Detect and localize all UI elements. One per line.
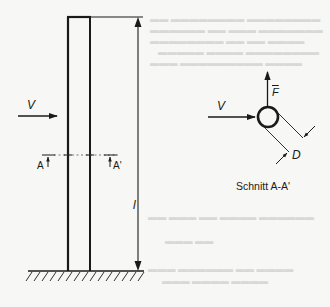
pole-side-view bbox=[67, 17, 91, 271]
diagram-graphics bbox=[0, 0, 330, 307]
ground-clamp bbox=[26, 271, 144, 281]
section-marker-a: A bbox=[37, 160, 44, 171]
diameter-label: D bbox=[292, 148, 301, 162]
section-marker-a-prime: A' bbox=[113, 160, 122, 171]
length-label: l bbox=[133, 198, 136, 212]
section-caption: Schnitt A-A' bbox=[236, 180, 290, 192]
force-label: F bbox=[272, 86, 279, 98]
length-dimension bbox=[91, 17, 143, 271]
section-line-a-a bbox=[42, 155, 118, 167]
velocity-label-side: V bbox=[27, 98, 35, 112]
diagram-page: ▬▬ ▬▬▬▬▬▬▬▬ ▬▬▬▬▬▬▬▬ ▬▬▬▬▬▬ ▬▬ ▬▬▬ ▬▬▬▬▬… bbox=[0, 0, 330, 307]
velocity-label-section: V bbox=[217, 99, 225, 113]
